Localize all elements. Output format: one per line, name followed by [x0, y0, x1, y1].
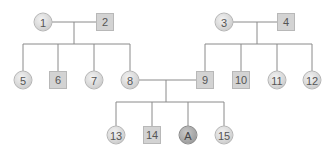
individual-13-circle: 13 — [107, 126, 126, 145]
individual-3-circle: 3 — [215, 13, 234, 32]
individual-12-circle: 12 — [303, 71, 322, 90]
individual-14-square: 14 — [143, 126, 161, 144]
individual-A-circle: A — [179, 126, 198, 145]
individual-9-square: 9 — [196, 71, 214, 89]
individual-10-square: 10 — [232, 71, 250, 89]
individual-8-circle: 8 — [121, 71, 140, 90]
individual-15-circle: 15 — [215, 126, 234, 145]
individual-4-square: 4 — [277, 13, 295, 31]
individual-7-circle: 7 — [85, 71, 104, 90]
individual-11-circle: 11 — [268, 71, 287, 90]
individual-5-circle: 5 — [14, 71, 33, 90]
individual-2-square: 2 — [96, 13, 114, 31]
individual-1-circle: 1 — [34, 13, 53, 32]
individual-6-square: 6 — [49, 71, 67, 89]
